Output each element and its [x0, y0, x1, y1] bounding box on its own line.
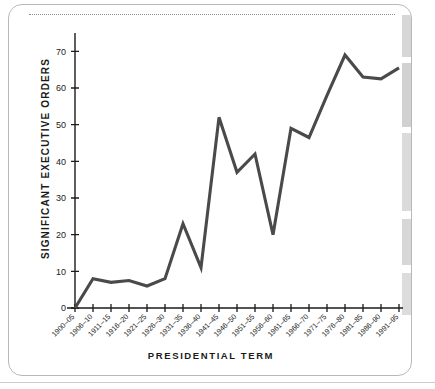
x-axis-title: PRESIDENTIAL TERM [9, 350, 412, 361]
plot-area: 010203040506070 1900–051906–101911–15191… [9, 5, 412, 376]
y-tick-label: 0 [61, 303, 66, 313]
scanned-page-card: SIGNIFICANT EXECUTIVE ORDERS 01020304050… [8, 4, 412, 376]
line-chart: SIGNIFICANT EXECUTIVE ORDERS 01020304050… [9, 5, 412, 376]
data-series-line [75, 55, 399, 308]
x-axis-labels: 1900–051906–101911–151916–201921–251926–… [50, 312, 401, 339]
y-tick-label: 40 [56, 157, 66, 167]
y-tick-label: 70 [56, 47, 66, 57]
y-tick-label: 50 [56, 120, 66, 130]
y-tick-label: 10 [56, 267, 66, 277]
y-tick-label: 30 [56, 193, 66, 203]
page-bottom-rule [0, 382, 435, 383]
y-tick-label: 60 [56, 83, 66, 93]
y-tick-label: 20 [56, 230, 66, 240]
